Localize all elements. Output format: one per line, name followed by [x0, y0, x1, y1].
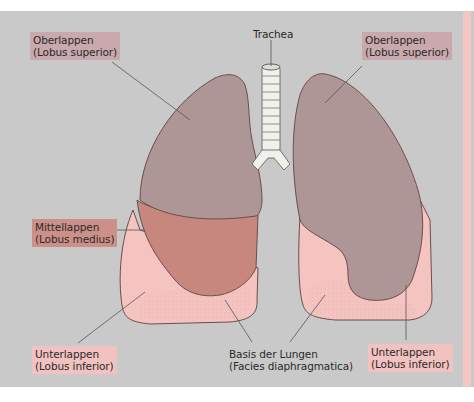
label-lower-lobe-left-line1: Unterlappen: [35, 348, 114, 360]
label-upper-lobe-left: Oberlappen (Lobus superior): [30, 32, 120, 60]
label-upper-lobe-right-line2: (Lobus superior): [365, 46, 449, 58]
label-upper-lobe-left-line1: Oberlappen: [33, 34, 117, 46]
label-trachea: Trachea: [250, 26, 296, 42]
label-lower-lobe-left: Unterlappen (Lobus inferior): [32, 346, 117, 374]
label-upper-lobe-right-line1: Oberlappen: [365, 34, 449, 46]
label-lung-base-line1: Basis der Lungen: [229, 348, 353, 360]
label-upper-lobe-right: Oberlappen (Lobus superior): [362, 32, 452, 60]
label-lower-lobe-right: Unterlappen (Lobus inferior): [368, 344, 453, 372]
label-lower-lobe-left-line2: (Lobus inferior): [35, 360, 114, 372]
label-lower-lobe-right-line2: (Lobus inferior): [371, 358, 450, 370]
trachea: [252, 64, 290, 170]
label-middle-lobe-line2: (Lobus medius): [35, 233, 114, 245]
label-upper-lobe-left-line2: (Lobus superior): [33, 46, 117, 58]
label-trachea-text: Trachea: [253, 28, 293, 40]
label-lower-lobe-right-line1: Unterlappen: [371, 346, 450, 358]
label-lung-base-line2: (Facies diaphragmatica): [229, 360, 353, 372]
label-middle-lobe-line1: Mittellappen: [35, 221, 114, 233]
label-middle-lobe: Mittellappen (Lobus medius): [32, 219, 117, 247]
label-lung-base: Basis der Lungen (Facies diaphragmatica): [226, 346, 356, 374]
lung-illustration: [0, 0, 474, 402]
